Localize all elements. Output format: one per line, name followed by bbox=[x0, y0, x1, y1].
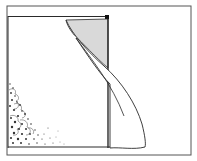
rod-bracket-icon bbox=[105, 15, 109, 19]
foliage-shrub bbox=[9, 83, 64, 145]
foliage-outline bbox=[9, 89, 34, 135]
illustration bbox=[0, 0, 197, 161]
curtain-drawing bbox=[0, 0, 197, 161]
curtain-shaded-panel bbox=[66, 19, 108, 68]
